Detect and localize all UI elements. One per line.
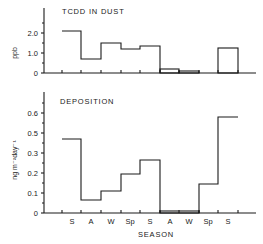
bottom-y-label: ng m⁻²day⁻¹ [11,140,19,180]
season-label-7: Sp [203,217,212,226]
top-tick-1: 1.0 [28,49,38,58]
top-y-label: ppb [11,47,19,59]
top-tick-0: 0 [34,69,38,78]
season-label-3: Sp [125,217,134,226]
deposition-step-series [62,139,160,213]
bottom-tick-0: 0 [34,209,38,218]
season-label-2: W [107,217,115,226]
bottom-tick-1: 0.1 [28,189,38,198]
season-label-1: A [88,217,93,226]
tcdd-bar-summer-3 [218,48,238,73]
deposition-step-series-2 [199,117,238,213]
season-label-5: A [167,217,172,226]
season-label-8: S [225,217,230,226]
tcdd-dust-chart [41,8,256,73]
season-label-0: S [69,217,74,226]
bottom-chart-title: DEPOSITION [60,97,114,106]
x-axis-label: SEASON [138,230,174,239]
bottom-tick-3: 0.3 [28,149,38,158]
season-label-4: S [147,217,152,226]
tcdd-step-series [62,31,160,73]
tcdd-bar-winter-2 [179,71,199,73]
bottom-tick-2: 0.2 [28,169,38,178]
deposition-chart [41,92,256,213]
top-chart-title: TCDD IN DUST [62,7,125,16]
bottom-tick-5: 0.6 [28,109,38,118]
tcdd-bar-autumn-2 [160,69,179,73]
season-label-6: W [185,217,193,226]
bottom-tick-4: 0.5 [28,129,38,138]
chart-figure: TCDD IN DUST 0 1.0 2.0 ppb DEPOSITION 0 … [0,0,263,244]
top-tick-2: 2.0 [28,29,38,38]
